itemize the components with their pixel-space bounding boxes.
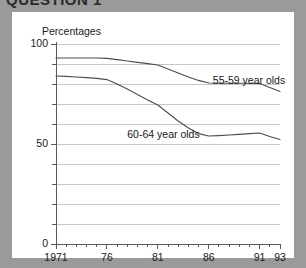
x-tick-label: 1971	[44, 251, 67, 263]
x-tick-label: 86	[203, 251, 215, 263]
y-tick-label: 100	[22, 37, 48, 49]
line-chart: Percentages 0501001971768186919355-59 ye…	[12, 12, 294, 258]
x-tick-label: 81	[152, 251, 164, 263]
series-label-1: 55-59 year olds	[213, 74, 285, 86]
x-tick-label: 91	[254, 251, 266, 263]
y-tick-label: 50	[22, 137, 48, 149]
x-tick-label: 93	[274, 251, 286, 263]
chart-card: Percentages 0501001971768186919355-59 ye…	[12, 12, 294, 258]
y-tick-label: 0	[22, 237, 48, 249]
x-tick-label: 76	[101, 251, 113, 263]
series-label-2: 60-64 year olds	[127, 128, 199, 140]
page-heading: QUESTION 1	[6, 0, 102, 8]
y-axis-title: Percentages	[42, 25, 101, 37]
